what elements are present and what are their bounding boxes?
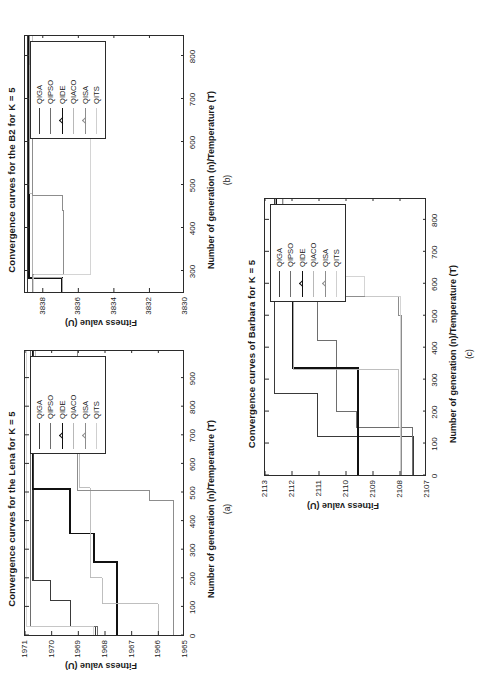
y-tick-label: 1966: [153, 640, 162, 682]
legend-swatch-icon: [96, 423, 97, 449]
x-tick-label: 700: [188, 93, 197, 106]
legend-label: QIPSO: [286, 243, 295, 267]
y-tick-label: 2110: [341, 480, 350, 522]
panel-a-title: Convergence curves for the Lena for K = …: [6, 330, 17, 688]
legend-item-qiaco: QIACO: [68, 46, 79, 134]
legend-swatch-icon: [279, 271, 280, 297]
x-tick-label: 600: [188, 458, 197, 471]
x-tick-label: 800: [188, 50, 197, 63]
legend-item-qide: QIDE: [57, 361, 68, 449]
legend-swatch-icon: [39, 423, 40, 449]
legend-item-qisa: QISA: [80, 361, 91, 449]
x-tick-label: 900: [188, 372, 197, 385]
x-tick-label: 100: [430, 437, 439, 450]
y-tick-label: 2112: [287, 480, 296, 522]
legend-item-qisa: QISA: [320, 209, 331, 297]
legend-item-qide: QIDE: [57, 46, 68, 134]
legend-item-qiga: QIGA: [274, 209, 285, 297]
x-tick-label: 0: [430, 474, 439, 478]
legend-label: QIGA: [275, 248, 284, 267]
y-tick-label: 2109: [368, 480, 377, 522]
legend-label: QIACO: [69, 395, 78, 419]
legend-item-qits: QITS: [331, 209, 342, 297]
x-tick-label: 500: [188, 179, 197, 192]
legend-label: QITS: [92, 86, 101, 104]
y-tick-label: 3836: [73, 297, 82, 339]
legend-label: QIDE: [58, 400, 67, 419]
y-tick-label: 2108: [395, 480, 404, 522]
legend-swatch-icon: [50, 423, 51, 449]
x-tick-label: 500: [188, 486, 197, 499]
x-tick-label: 400: [188, 515, 197, 528]
x-tick-label: 400: [430, 342, 439, 355]
legend-item-qiga: QIGA: [34, 361, 45, 449]
c-legend: QIGAQIPSOQIDEQIACOQISAQITS: [270, 204, 346, 302]
legend-label: QIPSO: [46, 80, 55, 104]
y-tick-label: 3838: [37, 297, 46, 339]
legend-swatch-icon: [62, 108, 63, 134]
legend-item-qits: QITS: [91, 46, 102, 134]
legend-item-qide: QIDE: [297, 209, 308, 297]
legend-swatch-icon: [73, 108, 74, 134]
panel-b-xlabel: Number of generation (n)/Temperature (T): [206, 15, 216, 345]
x-tick-label: 100: [188, 601, 197, 614]
x-tick-label: 500: [430, 310, 439, 323]
figure-canvas: Convergence curves for the Lena for K = …: [0, 0, 489, 688]
legend-label: QITS: [92, 401, 101, 419]
y-tick-label: 3830: [180, 297, 189, 339]
legend-item-qiaco: QIACO: [308, 209, 319, 297]
y-tick-label: 3832: [144, 297, 153, 339]
y-tick-label: 1971: [20, 640, 29, 682]
a-legend: QIGAQIPSOQIDEQIACOQISAQITS: [30, 356, 106, 454]
legend-item-qipso: QIPSO: [285, 209, 296, 297]
legend-swatch-icon: [85, 108, 86, 134]
legend-item-qiaco: QIACO: [68, 361, 79, 449]
legend-swatch-icon: [290, 271, 291, 297]
panel-c-barbara: Convergence curves of Barbara for K = 5 …: [240, 178, 489, 530]
legend-swatch-icon: [85, 423, 86, 449]
legend-label: QIPSO: [46, 395, 55, 419]
x-tick-label: 300: [188, 544, 197, 557]
legend-swatch-icon: [62, 423, 63, 449]
panel-c-tag: (c): [464, 178, 474, 530]
panel-a-xlabel: Number of generation (n)/Temperature (T): [206, 330, 216, 688]
legend-label: QIACO: [309, 243, 318, 267]
x-tick-label: 200: [188, 572, 197, 585]
y-tick-label: 1965: [180, 640, 189, 682]
y-tick-label: 3834: [108, 297, 117, 339]
panel-a-lena: Convergence curves for the Lena for K = …: [0, 330, 245, 688]
panel-a-tag: (a): [222, 330, 232, 688]
legend-label: QISA: [321, 249, 330, 267]
legend-label: QIDE: [298, 248, 307, 267]
legend-swatch-icon: [336, 271, 337, 297]
b-legend: QIGAQIPSOQIDEQIACOQISAQITS: [30, 41, 106, 139]
y-tick-label: 2111: [314, 480, 323, 522]
legend-item-qisa: QISA: [80, 46, 91, 134]
panel-b-b2: Convergence curves for the B2 for K = 5 …: [0, 15, 245, 345]
panel-c-title: Convergence curves of Barbara for K = 5: [246, 178, 257, 530]
legend-label: QITS: [332, 249, 341, 267]
x-tick-label: 300: [188, 265, 197, 278]
x-tick-label: 0: [188, 634, 197, 638]
panel-b-ylabel: Fitness value (U): [51, 318, 151, 328]
legend-swatch-icon: [325, 271, 326, 297]
legend-item-qiga: QIGA: [34, 46, 45, 134]
legend-swatch-icon: [50, 108, 51, 134]
legend-swatch-icon: [302, 271, 303, 297]
legend-label: QIGA: [35, 85, 44, 104]
x-tick-label: 400: [188, 222, 197, 235]
x-tick-label: 600: [188, 136, 197, 149]
y-tick-label: 2107: [422, 480, 431, 522]
x-tick-label: 700: [430, 246, 439, 259]
legend-label: QIDE: [58, 85, 67, 104]
legend-swatch-icon: [96, 108, 97, 134]
x-tick-label: 800: [188, 401, 197, 414]
legend-item-qipso: QIPSO: [45, 361, 56, 449]
legend-item-qipso: QIPSO: [45, 46, 56, 134]
legend-label: QIACO: [69, 80, 78, 104]
y-tick-label: 1969: [73, 640, 82, 682]
y-tick-label: 1968: [100, 640, 109, 682]
legend-label: QISA: [81, 86, 90, 104]
x-tick-label: 700: [188, 429, 197, 442]
y-tick-label: 1970: [46, 640, 55, 682]
